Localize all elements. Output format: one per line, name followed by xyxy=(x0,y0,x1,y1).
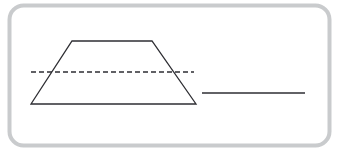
figure-background xyxy=(0,0,339,153)
diagram-canvas xyxy=(0,0,339,153)
figure-container xyxy=(0,0,339,153)
